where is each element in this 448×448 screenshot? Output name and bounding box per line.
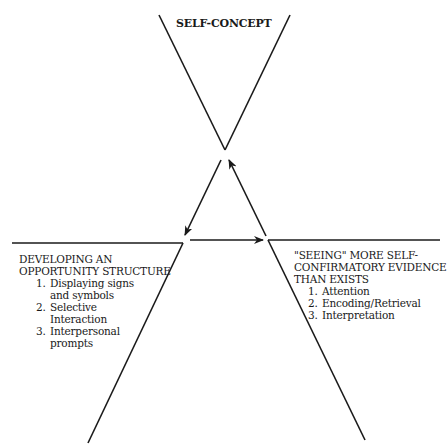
arrow-top-to-left xyxy=(185,160,221,235)
left-node-list: 1. Displaying signs and symbols 2. Selec… xyxy=(36,277,148,349)
list-item-text: Attention xyxy=(322,285,448,297)
list-item: 3. Interpretation xyxy=(308,309,448,321)
list-item: 2. Selective Interaction xyxy=(36,301,148,325)
top-node-label: SELF-CONCEPT xyxy=(176,18,272,30)
list-item-number: 3. xyxy=(308,309,322,321)
left-node-title-line2: OPPORTUNITY STRUCTURE xyxy=(19,265,184,277)
left-node-label: DEVELOPING AN OPPORTUNITY STRUCTURE 1. D… xyxy=(19,253,184,349)
right-node-label: "SEEING" MORE SELF- CONFIRMATORY EVIDENC… xyxy=(294,249,448,321)
right-node-title-line1: "SEEING" MORE SELF- xyxy=(294,249,448,261)
list-item-text: Interpretation xyxy=(322,309,448,321)
list-item-text: Interpersonal prompts xyxy=(50,325,130,349)
arrow-right-to-top xyxy=(229,160,266,236)
list-item-text: Displaying signs and symbols xyxy=(50,277,148,301)
list-item-number: 1. xyxy=(36,277,50,301)
top-node-shape xyxy=(159,15,290,150)
right-node-list: 1. Attention 2. Encoding/Retrieval 3. In… xyxy=(308,285,448,321)
right-node-title-line2: CONFIRMATORY EVIDENCE xyxy=(294,261,448,273)
list-item-number: 3. xyxy=(36,325,50,349)
list-item-text: Selective Interaction xyxy=(50,301,148,325)
list-item-number: 2. xyxy=(36,301,50,325)
list-item: 2. Encoding/Retrieval xyxy=(308,297,448,309)
right-node-title-line3: THAN EXISTS xyxy=(294,273,448,285)
list-item-number: 2. xyxy=(308,297,322,309)
list-item-number: 1. xyxy=(308,285,322,297)
list-item-text: Encoding/Retrieval xyxy=(322,297,448,309)
diagram-canvas xyxy=(0,0,448,448)
left-node-title-line1: DEVELOPING AN xyxy=(19,253,184,265)
list-item: 1. Displaying signs and symbols xyxy=(36,277,148,301)
list-item: 1. Attention xyxy=(308,285,448,297)
list-item: 3. Interpersonal prompts xyxy=(36,325,148,349)
